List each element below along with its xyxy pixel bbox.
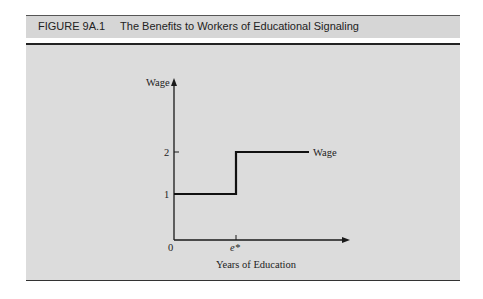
wage-step-line — [174, 152, 309, 194]
y-axis-label: Wage — [146, 77, 170, 88]
x-axis-arrow-icon — [342, 237, 350, 243]
x-tick-label-estar: e* — [230, 242, 241, 253]
y-axis-arrow-icon — [171, 78, 177, 86]
chart-svg: Wage 2 1 0 e* Wage Years of Education — [0, 0, 483, 299]
y-tick-label-2: 2 — [164, 147, 169, 158]
y-tick-label-1: 1 — [164, 189, 169, 200]
series-label-wage: Wage — [313, 147, 337, 158]
x-tick-label-0: 0 — [168, 242, 173, 253]
x-axis-label: Years of Education — [216, 259, 297, 270]
